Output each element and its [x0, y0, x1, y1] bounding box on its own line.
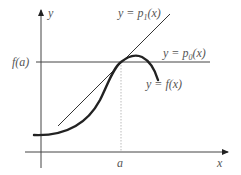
y-axis-label: y: [48, 7, 53, 19]
fa-tick-label: f(a): [12, 56, 29, 68]
p0-curve-label: y = p0(x): [163, 47, 206, 62]
x-axis-label: x: [217, 157, 222, 169]
p1-curve-label: y = p1(x): [118, 7, 161, 22]
a-tick-label: a: [117, 157, 123, 169]
f-curve-label: y = f(x): [146, 78, 182, 90]
f-curve: [34, 56, 158, 135]
diagram-canvas: [0, 0, 241, 175]
